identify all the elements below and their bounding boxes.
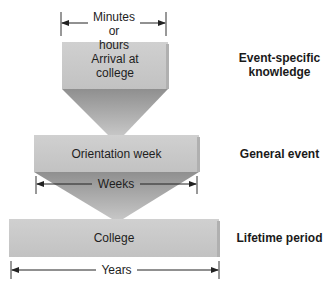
box-label-line2: college bbox=[62, 66, 168, 80]
side-label-lifetime-period: Lifetime period bbox=[232, 231, 327, 245]
hierarchy-diagram bbox=[0, 0, 329, 289]
side-label-general-event: General event bbox=[232, 147, 327, 161]
box-label-line1: Arrival at bbox=[62, 52, 168, 66]
side-label-event-specific: Event-specific knowledge bbox=[232, 51, 327, 79]
duration-label-minutes: Minutes or hours bbox=[88, 10, 140, 52]
side-label-line2: knowledge bbox=[232, 65, 327, 79]
duration-line2: hours bbox=[88, 38, 140, 52]
box-label-orientation: Orientation week bbox=[34, 147, 199, 161]
side-label-line1: Event-specific bbox=[232, 51, 327, 65]
funnel-1 bbox=[62, 89, 168, 135]
box-label-college: College bbox=[9, 231, 219, 245]
duration-label-weeks: Weeks bbox=[92, 177, 140, 191]
duration-label-years: Years bbox=[96, 263, 137, 277]
box-label-arrival: Arrival at college bbox=[62, 52, 168, 80]
duration-line1: Minutes or bbox=[88, 10, 140, 38]
